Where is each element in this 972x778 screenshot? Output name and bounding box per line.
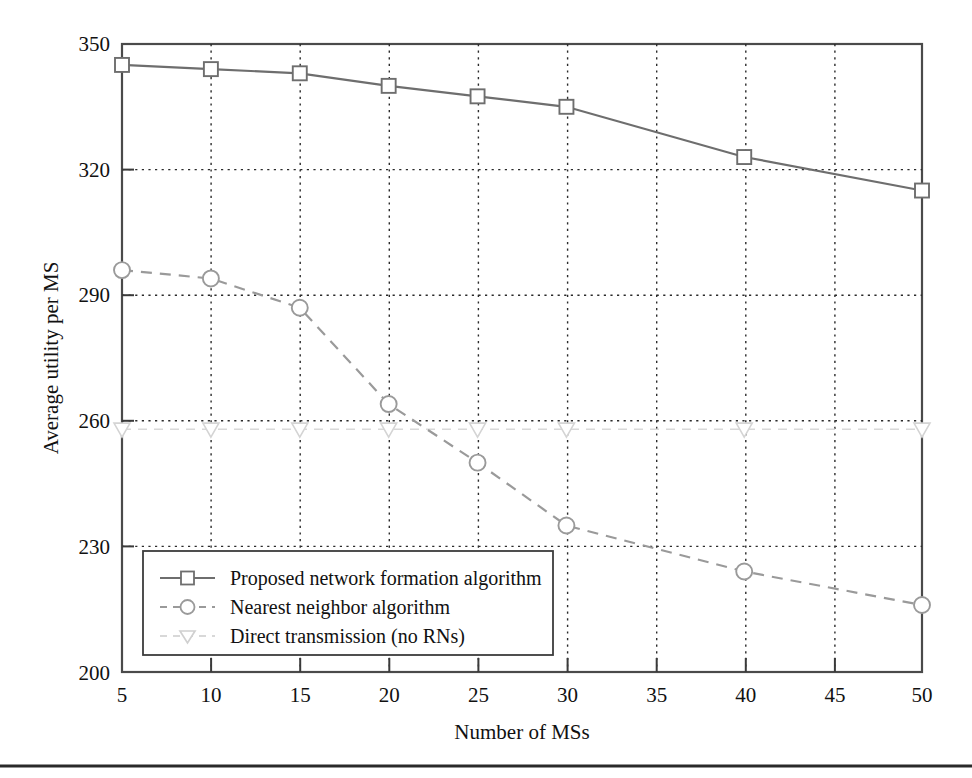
square-marker: [737, 150, 751, 164]
square-marker: [293, 66, 307, 80]
circle-marker: [558, 517, 574, 533]
circle-marker: [203, 270, 219, 286]
square-marker: [471, 89, 485, 103]
square-marker: [382, 79, 396, 93]
y-tick-200: 200: [79, 661, 111, 685]
y-axis-title: Average utility per MS: [39, 262, 63, 455]
triangle-down-marker: [292, 423, 308, 437]
x-axis-tickmarks: [211, 658, 835, 672]
triangle-down-marker: [736, 423, 752, 437]
legend-label-nearest: Nearest neighbor algorithm: [230, 596, 450, 619]
y-tick-320: 320: [79, 158, 111, 182]
triangle-down-marker: [381, 423, 397, 437]
x-tick-15: 15: [290, 683, 311, 707]
y-tick-260: 260: [79, 409, 111, 433]
x-tick-10: 10: [201, 683, 222, 707]
x-tick-20: 20: [379, 683, 400, 707]
circle-marker: [736, 564, 752, 580]
circle-marker: [381, 396, 397, 412]
square-marker: [204, 62, 218, 76]
horizontal-gridlines: [122, 170, 922, 547]
circle-marker: [292, 300, 308, 316]
y-tick-230: 230: [79, 535, 111, 559]
triangle-down-marker: [114, 423, 130, 437]
square-marker-icon: [181, 572, 194, 585]
x-tick-35: 35: [646, 683, 667, 707]
x-axis-title: Number of MSs: [454, 720, 589, 744]
chart-plot: 350 320 290 260 230 200 5 10 15 20 25 30…: [0, 0, 972, 778]
y-axis-tick-labels: 350 320 290 260 230 200: [79, 32, 111, 685]
circle-marker-icon: [181, 600, 195, 614]
triangle-down-marker: [203, 423, 219, 437]
series-proposed-algorithm: [115, 58, 929, 198]
triangle-down-marker: [914, 423, 930, 437]
y-tick-290: 290: [79, 283, 111, 307]
x-tick-40: 40: [735, 683, 756, 707]
y-tick-350: 350: [79, 32, 111, 56]
square-marker: [115, 58, 129, 72]
x-tick-45: 45: [824, 683, 845, 707]
square-marker: [559, 100, 573, 114]
x-tick-30: 30: [557, 683, 578, 707]
series-direct-transmission: [114, 423, 930, 437]
legend-label-proposed: Proposed network formation algorithm: [230, 567, 542, 590]
circle-marker: [470, 455, 486, 471]
legend-label-direct: Direct transmission (no RNs): [230, 625, 465, 648]
square-marker: [915, 184, 929, 198]
x-axis-tick-labels: 5 10 15 20 25 30 35 40 45 50: [117, 683, 933, 707]
triangle-down-marker: [558, 423, 574, 437]
circle-marker: [114, 262, 130, 278]
y-axis-tickmarks: [122, 170, 134, 547]
x-tick-25: 25: [468, 683, 489, 707]
figure-container: 350 320 290 260 230 200 5 10 15 20 25 30…: [0, 0, 972, 778]
circle-marker: [914, 597, 930, 613]
x-tick-50: 50: [912, 683, 933, 707]
chart-legend: Proposed network formation algorithm Nea…: [143, 551, 553, 655]
x-tick-5: 5: [117, 683, 128, 707]
triangle-down-marker: [470, 423, 486, 437]
